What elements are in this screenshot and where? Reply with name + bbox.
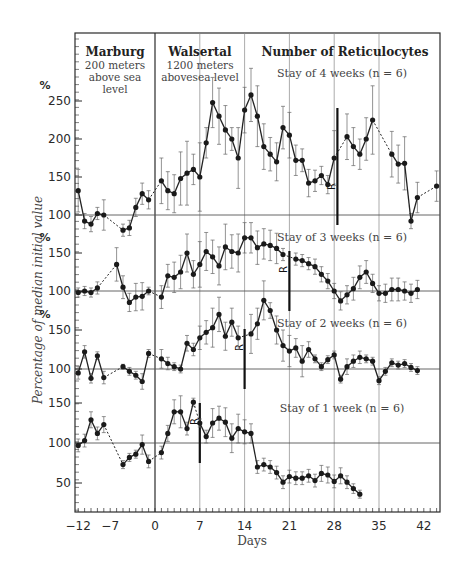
data-point [332,288,337,293]
data-point [261,298,266,303]
data-point [197,262,202,267]
data-point [88,222,93,227]
data-point [210,100,215,105]
y-tick-label: 150 [48,323,71,337]
return-marker-label: R [278,266,289,273]
data-point [351,486,356,491]
data-point [312,356,317,361]
data-point [312,264,317,269]
data-point [402,361,407,366]
data-point [287,348,292,353]
data-point [197,335,202,340]
data-point [140,442,145,447]
data-point [236,426,241,431]
data-point [229,436,234,441]
x-axis: −12−7071421283542Days [66,508,437,548]
data-point [332,352,337,357]
data-point [191,272,196,277]
data-point [325,357,330,362]
data-point [255,245,260,250]
data-point [274,470,279,475]
data-point [280,343,285,348]
data-point [127,225,132,230]
data-point [357,492,362,497]
panel-label: Stay of 1 week (n = 6) [280,402,404,415]
data-point [325,472,330,477]
data-point [389,152,394,157]
data-point [338,473,343,478]
data-point [140,379,145,384]
data-point [370,359,375,364]
data-point [293,476,298,481]
data-point [274,159,279,164]
data-point [248,92,253,97]
data-point [376,291,381,296]
data-point [76,370,81,375]
data-point [82,218,87,223]
data-point [236,155,241,160]
data-point [95,285,100,290]
data-point [370,281,375,286]
data-point [165,361,170,366]
x-tick-label: 7 [196,519,204,533]
percent-unit: % [39,79,50,92]
data-point [434,184,439,189]
data-point [344,134,349,139]
data-point [216,114,221,119]
data-point [223,420,228,425]
data-point [172,191,177,196]
data-point [120,285,125,290]
percent-unit: % [39,308,50,321]
data-point [120,364,125,369]
data-point [293,158,298,163]
data-point [357,152,362,157]
data-point [344,364,349,369]
data-point [204,434,209,439]
data-point [389,287,394,292]
data-point [210,420,215,425]
data-point [248,235,253,240]
y-tick-label: 100 [48,284,71,298]
region-subtitle: abovesea level [161,71,239,83]
data-point [268,152,273,157]
data-point [306,261,311,266]
x-tick-label: 35 [371,519,386,533]
data-point [415,195,420,200]
data-point [165,188,170,193]
data-point [95,431,100,436]
data-point [101,375,106,380]
y-tick-label: 100 [48,362,71,376]
data-point [319,364,324,369]
data-point [338,377,343,382]
data-point [82,349,87,354]
data-point [229,249,234,254]
data-point [402,288,407,293]
data-point [229,320,234,325]
data-point [415,368,420,373]
data-point [184,341,189,346]
data-point [261,144,266,149]
data-point [344,292,349,297]
data-point [172,275,177,280]
data-point [319,173,324,178]
data-point [178,409,183,414]
data-point [165,273,170,278]
region-subtitle: 200 meters [85,59,145,71]
data-point [127,369,132,374]
data-point [396,363,401,368]
data-point [114,262,119,267]
data-point [293,256,298,261]
data-point [268,464,273,469]
data-point [95,353,100,358]
data-point [242,108,247,113]
data-point [332,479,337,484]
y-tick-label: 150 [48,170,71,184]
data-point [370,117,375,122]
data-point [280,252,285,257]
data-point [210,254,215,259]
data-point [415,287,420,292]
data-point [338,298,343,303]
panel-2-weeks: 100150%Stay of 2 weeks (n = 6)R [39,281,440,389]
panel-label: Stay of 4 weeks (n = 6) [277,67,407,80]
data-point [95,211,100,216]
